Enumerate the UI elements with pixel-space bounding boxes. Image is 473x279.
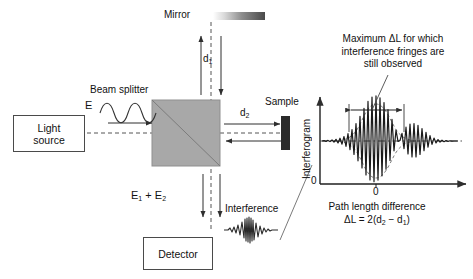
chart-xlabel-line2: ΔL = 2(d2 − d1): [304, 213, 450, 229]
field-E-label: E: [85, 100, 92, 111]
detector-label: Detector: [158, 248, 198, 260]
d1-label: d1: [203, 53, 212, 67]
interference-burst-icon: [224, 217, 278, 243]
light-source-box[interactable]: Light source: [13, 115, 85, 152]
max-delta-l-annotation: Maximum ΔL for which interference fringe…: [320, 33, 466, 71]
d1-subscript: 1: [209, 58, 213, 65]
beam-splitter-label: Beam splitter: [90, 84, 148, 95]
d2-label: d2: [240, 107, 249, 121]
mirror-element: [213, 12, 265, 20]
field-sum-plus: + E: [142, 189, 162, 201]
chart-xlabel-line1: Path length difference: [304, 200, 450, 213]
light-source-label-line1: Light: [38, 122, 61, 134]
chart-xlabel: Path length difference ΔL = 2(d2 − d1): [304, 200, 450, 229]
chart-y-origin-tick: 0: [311, 175, 317, 186]
chart-x-center-tick-label: 0: [373, 186, 379, 197]
xlabel-delta-pre: ΔL = 2(d: [344, 214, 382, 225]
chart-interferogram-trace: [322, 96, 458, 182]
xlabel-close-paren: ): [407, 214, 410, 225]
light-source-label-line2: source: [33, 134, 65, 146]
annotation-line-1: Maximum ΔL for which: [320, 33, 466, 46]
detector-box[interactable]: Detector: [143, 237, 213, 270]
interference-label: Interference: [225, 203, 278, 214]
sample-element: [281, 116, 290, 150]
input-wave: [100, 103, 156, 123]
annotation-line-3: still observed: [320, 58, 466, 71]
annotation-line-2: interference fringes are: [320, 46, 466, 59]
d2-subscript: 2: [246, 112, 250, 119]
sample-label: Sample: [265, 96, 299, 107]
field-sum-label: E1 + E2: [131, 190, 166, 204]
interferometer-figure: Mirror Beam splitter Sample Interference…: [0, 0, 473, 279]
xlabel-minus: − d: [386, 214, 403, 225]
chart-ylabel: Interferogram: [301, 101, 312, 179]
mirror-label: Mirror: [164, 9, 190, 20]
field-sum-E2-subscript: 2: [162, 195, 166, 202]
